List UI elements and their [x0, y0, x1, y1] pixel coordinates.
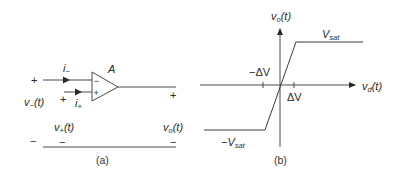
v-out-minus-sign: − [170, 136, 176, 148]
noninverting-sign: + [94, 88, 99, 98]
inverting-sign: − [94, 76, 99, 86]
x-axis-label: vd(t) [362, 80, 382, 94]
panel-b-labels: vo(t) Vsat −ΔV ΔV vd(t) −Vsat (b) [221, 10, 382, 166]
neg-v-sat-label: −Vsat [221, 136, 246, 150]
panel-b-plot [200, 29, 363, 147]
panel-a-caption: (a) [96, 154, 109, 166]
v-out-plus-sign: + [170, 89, 176, 101]
v-plus-plus-sign: + [60, 93, 66, 105]
delta-v-label: ΔV [287, 91, 302, 103]
v-sat-label: Vsat [322, 28, 340, 42]
panel-a-labels: + i− A − + + i+ + v−(t) v+(t) vo(t) − − … [24, 62, 183, 166]
v-minus-minus-sign: − [30, 135, 36, 147]
current-plus-label: i+ [75, 97, 82, 111]
panel-b-caption: (b) [274, 154, 287, 166]
current-plus-arrow-icon [75, 89, 82, 96]
current-minus-label: i− [63, 62, 70, 76]
v-plus-minus-sign: − [59, 136, 65, 148]
op-amp-figure: + i− A − + + i+ + v−(t) v+(t) vo(t) − − … [0, 0, 401, 177]
y-axis-label: vo(t) [271, 10, 291, 24]
v-minus-label: v−(t) [24, 96, 45, 110]
neg-delta-v-label: −ΔV [249, 66, 271, 78]
v-plus-label: v+(t) [54, 121, 75, 135]
current-minus-arrow-icon [63, 77, 70, 84]
v-out-label: vo(t) [163, 121, 183, 135]
transfer-characteristic-curve [204, 42, 363, 130]
v-minus-plus-sign: + [31, 74, 37, 86]
gain-label: A [107, 63, 115, 75]
